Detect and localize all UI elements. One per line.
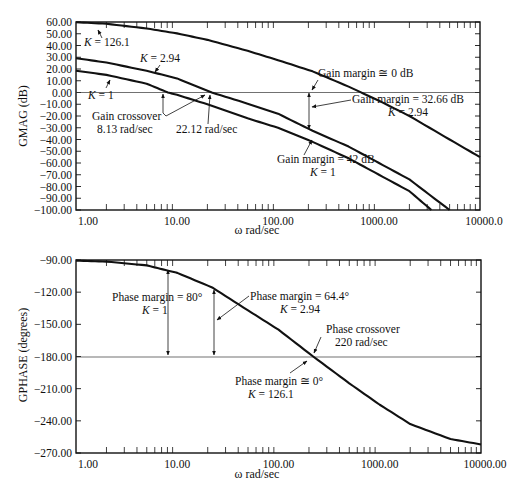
- y-tick-label: 30.00: [46, 51, 72, 63]
- label-k294: K = 2.94: [139, 52, 180, 64]
- y-tick-label: 40.00: [46, 40, 72, 52]
- y-tick-label: 20.00: [46, 63, 72, 75]
- y-tick-label: −90.00: [40, 192, 73, 204]
- label-k1: K = 1: [87, 89, 114, 101]
- magnitude-y-axis-title: GMAG (dB): [16, 85, 30, 147]
- phase-y-ticks: −90.00−120.00−150.00−180.00−210.00−240.0…: [34, 254, 481, 459]
- label-phase-margin-0-k: K = 126.1: [247, 388, 294, 400]
- label-phase-margin-0: Phase margin ≅ 0°: [235, 375, 324, 388]
- y-tick-label: −40.00: [40, 134, 73, 146]
- y-tick-label: −80.00: [40, 181, 73, 193]
- bode-figure: 60.0050.0040.0030.0020.0010.000.00−10.00…: [0, 0, 515, 498]
- label-phase-crossover: Phase crossover: [326, 323, 400, 335]
- y-tick-label: −50.00: [40, 145, 73, 157]
- y-tick-label: −90.00: [40, 254, 73, 266]
- label-gain-crossover-freq1: 8.13 rad/sec: [97, 123, 153, 135]
- label-gain-margin-32: Gain margin = 32.66 dB: [352, 93, 464, 106]
- phase-x-axis-title: ω rad/sec: [235, 467, 280, 481]
- phase-y-axis-title: GPHASE (degrees): [16, 308, 30, 402]
- label-phase-margin-64-k: K = 2.94: [279, 303, 320, 315]
- label-gain-crossover: Gain crossover: [92, 110, 161, 122]
- x-tick-label: 1000.00: [361, 458, 399, 470]
- label-k126: K = 126.1: [83, 36, 130, 48]
- label-phase-margin-80: Phase margin = 80°: [112, 291, 203, 304]
- y-tick-label: −180.00: [34, 351, 72, 363]
- x-tick-label: 10000.0: [465, 215, 503, 227]
- phase-plot: −90.00−120.00−150.00−180.00−210.00−240.0…: [16, 254, 507, 481]
- y-tick-label: −20.00: [40, 110, 73, 122]
- label-phase-margin-64: Phase margin = 64.4°: [250, 290, 349, 303]
- y-tick-label: 10.00: [46, 75, 72, 87]
- label-phase-crossover-freq: 220 rad/sec: [335, 336, 388, 348]
- y-tick-label: −210.00: [34, 383, 72, 395]
- curve-gphase: [76, 261, 481, 445]
- y-tick-label: −270.00: [34, 447, 72, 459]
- x-tick-label: 1.00: [78, 215, 98, 227]
- x-tick-label: 10000.00: [463, 458, 506, 470]
- y-tick-label: −30.00: [40, 122, 73, 134]
- y-tick-label: 0.00: [52, 87, 72, 99]
- x-tick-label: 10.00: [164, 458, 190, 470]
- y-tick-label: −150.00: [34, 318, 72, 330]
- y-tick-label: −10.00: [40, 98, 73, 110]
- y-tick-label: 60.00: [46, 16, 72, 28]
- magnitude-plot: 60.0050.0040.0030.0020.0010.000.00−10.00…: [16, 16, 503, 237]
- y-tick-label: 50.00: [46, 28, 72, 40]
- y-tick-label: −120.00: [34, 286, 72, 298]
- curve-k-126-1: [76, 22, 480, 157]
- label-gain-margin-32-k: K = 2.94: [387, 106, 428, 118]
- phase-curve: [76, 261, 481, 445]
- magnitude-x-axis-title: ω rad/sec: [235, 223, 280, 237]
- x-tick-label: 10.00: [164, 215, 190, 227]
- y-tick-label: −60.00: [40, 157, 73, 169]
- label-gain-margin-42-k: K = 1: [309, 166, 336, 178]
- phase-plot-frame: [76, 260, 481, 453]
- y-tick-label: −70.00: [40, 169, 73, 181]
- x-tick-label: 1000.00: [360, 215, 398, 227]
- x-tick-label: 1.00: [78, 458, 98, 470]
- y-tick-label: −240.00: [34, 415, 72, 427]
- label-gain-margin-0: Gain margin ≅ 0 dB: [318, 67, 414, 80]
- label-gain-crossover-freq2: 22.12 rad/sec: [176, 123, 237, 135]
- curve-k-1: [76, 71, 431, 210]
- label-phase-margin-80-k: K = 1: [141, 304, 168, 316]
- label-gain-margin-42: Gain margin = 42 dB: [277, 153, 375, 166]
- y-tick-label: −100.00: [34, 204, 72, 216]
